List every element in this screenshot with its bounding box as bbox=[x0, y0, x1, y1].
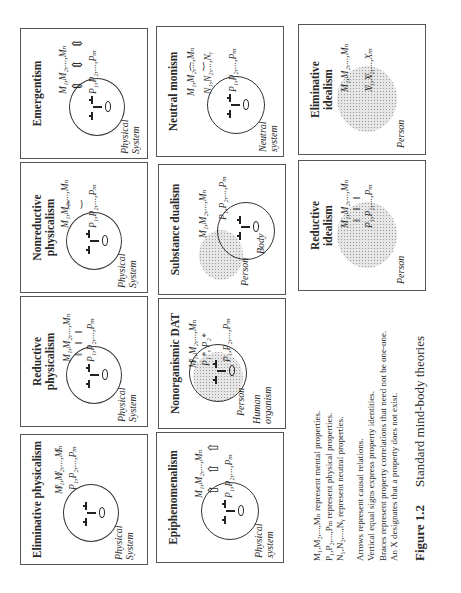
physical-row: P₁,P₂,...,Pₘ bbox=[67, 446, 78, 490]
mental-row: M₁,M₂,...,Mₙ bbox=[61, 314, 72, 362]
mental-row: M̸₁,M̸₂,...,M̸ₙ bbox=[53, 446, 64, 494]
physical-row: P₁,P₂,...,Pₘ bbox=[221, 318, 232, 362]
physical-row: P₁,P₂,...,Pₘ bbox=[363, 184, 374, 228]
panel-title: Eliminative physicalism bbox=[31, 435, 44, 564]
system-label: Physical System bbox=[113, 516, 135, 560]
identity-signs: ‖ ‖ ‖ bbox=[351, 194, 362, 222]
mental-row: M₁,M₂,...,Mₙ bbox=[197, 190, 208, 238]
system-label: Physical System bbox=[116, 244, 138, 288]
person-label: Person bbox=[239, 258, 250, 286]
panel-eliminative-physicalism: Eliminative physicalism Physical System … bbox=[20, 434, 148, 565]
panel-title: Epiphenomenalism bbox=[167, 433, 180, 562]
face-icon bbox=[81, 498, 107, 528]
panel-title: Nonreductive physicalism bbox=[31, 163, 57, 292]
legend-line: Arrows represent causal relations. bbox=[355, 331, 367, 561]
face-icon bbox=[225, 90, 251, 120]
panel-title: Nonorganismic DAT bbox=[169, 299, 182, 428]
legend-line: M₁,M₂,...,Mₙ represent mental properties… bbox=[312, 331, 324, 561]
body-label: Body bbox=[255, 233, 266, 254]
system-label: Physical System bbox=[116, 378, 138, 422]
panel-reductive-physicalism: Reductive physicalism Physical System M₁… bbox=[20, 296, 148, 427]
figure-page: Eliminative physicalism Physical System … bbox=[0, 0, 461, 593]
mental-row: M̸₁,M₂,...,Mₙ bbox=[187, 320, 198, 368]
person-label: Person bbox=[395, 120, 406, 148]
legend-line: Braces represent property correlations t… bbox=[378, 331, 390, 561]
panel-epiphenomenalism: Epiphenomenalism Physical system M₁,M₂,.… bbox=[156, 432, 284, 563]
figure-caption-text: Standard mind-body theories bbox=[412, 336, 427, 487]
panel-title: Emergentism bbox=[31, 29, 44, 158]
system-label: Physical System bbox=[119, 110, 141, 154]
physical-row: P₁,P₂,...,Pₘ bbox=[217, 176, 228, 220]
identity-signs: ‖ ‖ ‖ bbox=[73, 328, 84, 356]
person-label: Person bbox=[235, 388, 246, 416]
face-icon bbox=[220, 496, 246, 526]
face-icon bbox=[87, 92, 113, 122]
starred-physical-row: P₁*, P₂* bbox=[201, 334, 211, 366]
physical-row: P₁,P₂,...,Pₘ bbox=[223, 454, 234, 498]
panel-title: Eliminative idealism bbox=[309, 25, 335, 154]
person-label: Person bbox=[395, 256, 406, 284]
correlation-braces: { } bbox=[188, 60, 209, 71]
mental-row: M₁,M₂,...,Mₙ bbox=[193, 450, 204, 498]
face-icon bbox=[84, 360, 110, 390]
panel-substance-dualism: Substance dualism Person Body M₁,M₂,...,… bbox=[158, 164, 286, 295]
panel-emergentism: Emergentism Physical System M₁,M₂,...,Mₙ… bbox=[20, 28, 148, 159]
physical-row: P₁,P₂,...,Pₘ bbox=[85, 318, 96, 362]
figure-number: Figure 1.2 bbox=[412, 505, 427, 561]
legend-line: N₁,N₂,...,Nᵧ represent neutral propertie… bbox=[335, 331, 347, 561]
face-icon bbox=[84, 226, 110, 256]
system-label: Physical system bbox=[253, 514, 275, 558]
mental-row: M₁,M₂,...,Mₙ bbox=[339, 180, 350, 228]
panel-eliminative-idealism: Eliminative idealism Person M₁,M₂,...,Mₙ… bbox=[298, 24, 426, 155]
legend-line: P₁,P₂,...,Pₘ represent physical properti… bbox=[324, 331, 336, 561]
panel-title: Reductive physicalism bbox=[31, 297, 57, 426]
causal-arrows: ⇧ ⇧ ⇧ bbox=[205, 439, 222, 496]
mental-row: M₁,M₂,...,Mₙ bbox=[339, 44, 350, 92]
panel-neutral-monism: Neutral monism Neutral system M₁,M₂,...,… bbox=[156, 26, 284, 157]
physical-row: P₁,P₂,...,Pₘ bbox=[87, 50, 98, 94]
body-label: Human organism bbox=[251, 364, 273, 424]
correlation-braces: { } bbox=[66, 198, 87, 209]
eliminated-physical-row: X̸₁,X̸₂,...,Xₘ bbox=[363, 48, 374, 92]
mental-row: M₁,M₂,...,Mₙ bbox=[57, 46, 68, 94]
panel-title: Neutral monism bbox=[167, 27, 180, 156]
panel-reductive-idealism: Reductive idealism Person M₁,M₂,...,Mₙ ‖… bbox=[298, 160, 426, 291]
physical-row: P₁,P₂,...,Pₘ bbox=[87, 184, 98, 228]
panel-nonreductive-physicalism: Nonreductive physicalism Physical System… bbox=[20, 162, 148, 293]
physical-row: P₁,P₂,...,Pₘ bbox=[227, 48, 238, 92]
panel-title: Substance dualism bbox=[169, 165, 182, 294]
mental-row: M₁,M₂,...,Mₙ bbox=[185, 48, 196, 96]
system-label: Neutral system bbox=[257, 108, 279, 152]
legend: M₁,M₂,...,Mₙ represent mental properties… bbox=[312, 331, 401, 561]
panel-title: Reductive idealism bbox=[309, 161, 335, 290]
panel-nonorganismic-dat: Nonorganismic DAT Person Human organism … bbox=[158, 298, 286, 429]
legend-line: An X designates that a property does not… bbox=[389, 331, 401, 561]
legend-line: Vertical equal signs express property id… bbox=[366, 331, 378, 561]
figure-caption: Figure 1.2Standard mind-body theories bbox=[412, 336, 428, 561]
causal-arrows: ⇕ ⇕ ⇕ bbox=[69, 35, 86, 92]
neutral-row: N₁,N₂,...,Nᵧ bbox=[203, 52, 213, 94]
